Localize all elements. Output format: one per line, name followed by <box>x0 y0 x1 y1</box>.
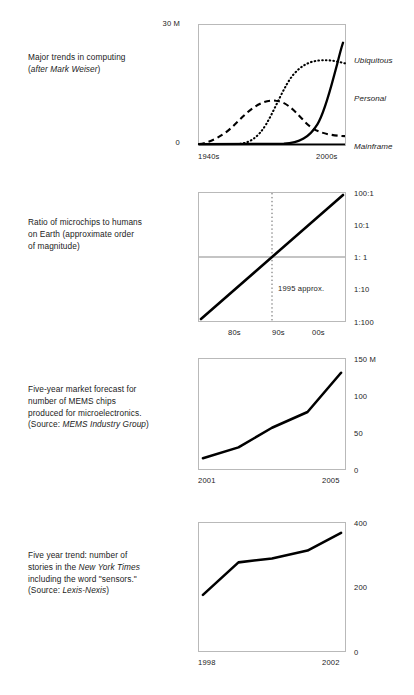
caption-source-italic: MEMS Industry Group <box>62 419 146 429</box>
chart2-plot-area <box>198 192 346 322</box>
chart1-series-svg <box>199 25 345 145</box>
panel-major-trends-in-computing: Major trends in computing (after Mark We… <box>0 0 414 180</box>
chart2-xtick-80s: 80s <box>228 328 241 337</box>
chart4-series-nyt-sensors <box>203 533 341 595</box>
chart1-y-zero-label: 0 <box>152 138 180 147</box>
chart2-ytick-10-1: 10:1 <box>354 221 369 230</box>
caption-line-4-suffix: ) <box>106 585 109 595</box>
caption-line-3: of magnitude) <box>28 241 80 251</box>
chart1-series-label-ubiquitous: Ubiquitous <box>354 56 393 65</box>
chart2-ytick-1-10: 1:10 <box>354 285 369 294</box>
caption-line-1: Five year trend: number of <box>28 550 127 560</box>
chart3-series-mems-chips <box>203 373 341 458</box>
panel-mems-chip-forecast: Five-year market forecast for number of … <box>0 350 414 520</box>
panel-caption-major-trends: Major trends in computing (after Mark We… <box>28 52 188 76</box>
chart3-xtick-2005: 2005 <box>322 476 340 485</box>
chart4-ytick-0: 0 <box>354 648 358 657</box>
chart1-xtick-1940s: 1940s <box>198 152 219 161</box>
chart2-xtick-00s: 00s <box>312 328 325 337</box>
caption-line-2: on Earth (approximate order <box>28 229 134 239</box>
caption-line-3: including the word "sensors." <box>28 574 137 584</box>
chart1-series-personal <box>199 60 345 144</box>
chart2-ytick-100-1: 100:1 <box>354 189 374 198</box>
panel-nyt-sensors-stories: Five year trend: number of stories in th… <box>0 515 414 695</box>
chart1-series-label-personal: Personal <box>354 94 386 103</box>
chart3-ytick-100: 100 <box>354 392 367 401</box>
chart3-ytick-150m: 150 M <box>354 355 376 364</box>
chart4-ytick-400: 400 <box>354 519 367 528</box>
caption-line-3: produced for microelectronics. <box>28 408 142 418</box>
chart1-xtick-2000s: 2000s <box>316 152 337 161</box>
chart3-series-svg <box>199 359 345 469</box>
chart1-series-ubiquitous <box>199 43 343 145</box>
chart2-annotation-1995: 1995 approx. <box>278 284 324 293</box>
caption-line-4-suffix: ) <box>146 419 149 429</box>
chart3-ytick-50: 50 <box>354 429 363 438</box>
chart4-series-svg <box>199 523 345 651</box>
chart1-plot-area <box>198 24 346 146</box>
chart4-ytick-200: 200 <box>354 583 367 592</box>
caption-line-4-prefix: (Source: <box>28 419 62 429</box>
caption-nyt-italic: New York Times <box>79 562 140 572</box>
chart3-plot-area <box>198 358 346 470</box>
caption-line-1: Five-year market forecast for <box>28 384 136 394</box>
chart3-ytick-0: 0 <box>354 466 358 475</box>
chart2-xtick-90s: 90s <box>272 328 285 337</box>
chart4-plot-area <box>198 522 346 652</box>
panel-caption-ratio-microchips: Ratio of microchips to humans on Earth (… <box>28 217 188 252</box>
chart1-y-top-label: 30 M <box>152 19 180 28</box>
caption-line-1: Ratio of microchips to humans <box>28 217 142 227</box>
caption-line-2: number of MEMS chips <box>28 396 116 406</box>
chart2-series-svg <box>199 193 345 321</box>
figure-page: Major trends in computing (after Mark We… <box>0 0 414 695</box>
caption-line-4-prefix: (Source: <box>28 585 62 595</box>
panel-caption-mems-forecast: Five-year market forecast for number of … <box>28 384 188 431</box>
chart4-xtick-2002: 2002 <box>322 658 340 667</box>
chart3-xtick-2001: 2001 <box>198 476 216 485</box>
caption-line-2-prefix: stories in the <box>28 562 79 572</box>
chart1-series-mainframe <box>199 101 345 144</box>
caption-line-2-italic: after Mark Weiser <box>31 64 98 74</box>
caption-line-1: Major trends in computing <box>28 52 126 62</box>
panel-caption-nyt-sensors: Five year trend: number of stories in th… <box>28 550 188 597</box>
chart1-series-label-mainframe: Mainframe <box>354 142 393 151</box>
chart4-xtick-1998: 1998 <box>198 658 216 667</box>
panel-ratio-microchips-to-humans: Ratio of microchips to humans on Earth (… <box>0 180 414 355</box>
caption-source-italic: Lexis-Nexis <box>62 585 106 595</box>
chart2-ytick-1-1: 1: 1 <box>354 253 367 262</box>
caption-line-2-suffix: ) <box>98 64 101 74</box>
chart2-ytick-1-100: 1:100 <box>354 318 374 327</box>
